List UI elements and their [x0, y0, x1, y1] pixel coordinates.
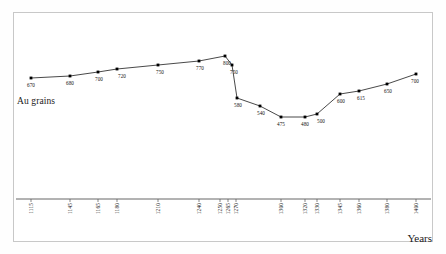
- x-tick-label: 1270: [233, 203, 239, 214]
- data-point-label: 680: [66, 80, 74, 86]
- x-tick-label: 1265: [225, 203, 231, 214]
- data-point-label: 750: [230, 69, 238, 75]
- chart-figure: Au grains Years 670680700720750770800750…: [0, 0, 446, 254]
- data-point-label: 540: [257, 110, 265, 116]
- x-tick: 1115: [31, 203, 32, 204]
- x-tick: 1165: [98, 203, 99, 204]
- x-tick-label: 1115: [28, 203, 34, 214]
- x-tick: 1180: [117, 203, 118, 204]
- x-tick-label: 1145: [67, 203, 73, 214]
- data-point-label: 600: [337, 98, 345, 104]
- data-point-label: 750: [156, 69, 164, 75]
- data-point-label: 700: [411, 78, 419, 84]
- x-tick: 1270: [236, 203, 237, 204]
- x-tick: 1210: [158, 203, 159, 204]
- chart-frame: [13, 12, 433, 242]
- x-tick: 1250: [220, 203, 221, 204]
- y-axis-label: Au grains: [17, 96, 55, 106]
- x-tick: 1400: [416, 203, 417, 204]
- x-tick: 1380: [387, 203, 388, 204]
- x-tick-label: 1400: [413, 203, 419, 214]
- x-tick-label: 1320: [302, 203, 308, 214]
- x-tick: 1265: [228, 203, 229, 204]
- x-axis-label: Years: [407, 232, 432, 244]
- x-tick-label: 1380: [384, 203, 390, 214]
- data-point-label: 480: [301, 121, 309, 127]
- data-point-label: 670: [27, 82, 35, 88]
- x-tick-label: 1210: [155, 203, 161, 214]
- x-tick: 1330: [317, 203, 318, 204]
- data-point-label: 580: [234, 102, 242, 108]
- data-point-label: 720: [118, 73, 126, 79]
- x-tick-label: 1250: [217, 203, 223, 214]
- x-tick-label: 1300: [278, 203, 284, 214]
- data-point-label: 650: [384, 88, 392, 94]
- data-point-label: 800: [223, 60, 231, 66]
- x-tick-label: 1165: [95, 203, 101, 214]
- x-tick-label: 1180: [114, 203, 120, 214]
- x-tick: 1320: [305, 203, 306, 204]
- data-point-label: 770: [196, 65, 204, 71]
- x-tick: 1240: [199, 203, 200, 204]
- x-tick: 1360: [359, 203, 360, 204]
- data-point-label: 700: [95, 76, 103, 82]
- x-tick: 1145: [70, 203, 71, 204]
- x-tick-label: 1345: [337, 203, 343, 214]
- data-point-label: 615: [357, 95, 365, 101]
- x-tick-label: 1240: [196, 203, 202, 214]
- data-point-label: 475: [277, 121, 285, 127]
- data-point-label: 500: [317, 118, 325, 124]
- x-tick: 1345: [340, 203, 341, 204]
- x-tick-label: 1330: [314, 203, 320, 214]
- x-tick-label: 1360: [356, 203, 362, 214]
- x-tick: 1300: [281, 203, 282, 204]
